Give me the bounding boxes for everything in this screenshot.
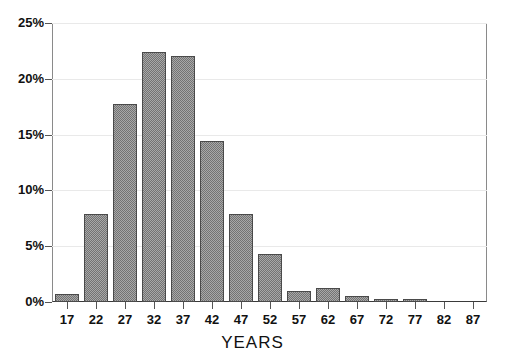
- histogram-chart: 0%5%10%15%20%25% 17222732374247525762677…: [0, 0, 505, 363]
- y-axis-label: 15%: [0, 128, 44, 141]
- bar-52: [258, 254, 282, 302]
- y-axis-label: 10%: [0, 183, 44, 196]
- bar-47: [229, 214, 253, 302]
- y-axis-tick: [45, 79, 52, 80]
- x-axis-tick: [299, 302, 300, 309]
- bar-62: [316, 288, 340, 303]
- bar-22: [84, 214, 108, 302]
- y-axis-label: 0%: [0, 295, 44, 308]
- bar-42: [200, 141, 224, 302]
- bar-32: [142, 52, 166, 302]
- x-axis-tick: [386, 302, 387, 309]
- y-axis-label: 25%: [0, 16, 44, 29]
- x-axis-tick: [241, 302, 242, 309]
- y-axis-label: 5%: [0, 239, 44, 252]
- y-axis-tick: [45, 302, 52, 303]
- bar-57: [287, 291, 311, 302]
- x-axis-tick: [96, 302, 97, 309]
- y-axis-tick: [45, 23, 52, 24]
- y-axis-tick: [45, 246, 52, 247]
- y-axis-label: 20%: [0, 72, 44, 85]
- x-axis-tick: [212, 302, 213, 309]
- x-axis-tick: [154, 302, 155, 309]
- x-axis-tick: [183, 302, 184, 309]
- x-axis-tick: [444, 302, 445, 309]
- x-axis-title: YEARS: [0, 333, 505, 353]
- y-axis-tick: [45, 190, 52, 191]
- x-axis-tick: [328, 302, 329, 309]
- x-axis-tick: [67, 302, 68, 309]
- x-axis-label: 87: [456, 312, 490, 327]
- bar-27: [113, 104, 137, 302]
- x-axis-tick: [415, 302, 416, 309]
- y-axis-tick: [45, 135, 52, 136]
- x-axis-tick: [357, 302, 358, 309]
- x-axis-tick: [473, 302, 474, 309]
- bar-37: [171, 56, 195, 302]
- x-axis-tick: [270, 302, 271, 309]
- bars-group: [52, 23, 487, 302]
- x-axis-tick: [125, 302, 126, 309]
- bar-17: [55, 294, 79, 302]
